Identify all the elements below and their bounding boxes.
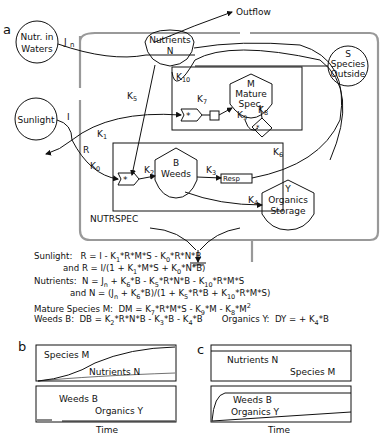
svg-text:J: J bbox=[63, 37, 67, 47]
svg-text:Organics Y: Organics Y bbox=[95, 406, 144, 416]
svg-text:K1: K1 bbox=[97, 129, 107, 141]
svg-text:K9: K9 bbox=[237, 110, 247, 122]
svg-text:Nutrients: Nutrients bbox=[149, 35, 191, 45]
sunlight-flow bbox=[57, 120, 72, 140]
svg-text:Species M: Species M bbox=[44, 350, 89, 360]
svg-text:Outside: Outside bbox=[331, 69, 366, 79]
svg-text:K7: K7 bbox=[197, 94, 207, 106]
svg-text:Resp: Resp bbox=[223, 175, 241, 183]
svg-text:Nutrients N: Nutrients N bbox=[89, 367, 140, 377]
multiplier-k8 bbox=[252, 118, 272, 137]
svg-text:*: * bbox=[256, 124, 260, 132]
svg-text:Time: Time bbox=[95, 425, 118, 435]
svg-text:R: R bbox=[83, 145, 89, 155]
panel-a-label: a bbox=[3, 22, 11, 37]
svg-text:Species M: Species M bbox=[290, 367, 335, 377]
svg-text:N: N bbox=[167, 46, 174, 56]
svg-text:c: c bbox=[197, 342, 204, 357]
jn-flow bbox=[58, 44, 195, 57]
svg-text:Outflow: Outflow bbox=[236, 7, 271, 17]
svg-text:K0: K0 bbox=[90, 161, 100, 173]
nutrspec-diagram: a Nutr. in Waters J n Sunlight I S Speci… bbox=[0, 0, 381, 439]
svg-text:Nutrients N: Nutrients N bbox=[227, 355, 278, 365]
multiplier-mature bbox=[181, 109, 202, 121]
svg-text:K6: K6 bbox=[273, 147, 283, 159]
svg-text:Organics Y: Organics Y bbox=[231, 407, 280, 417]
multiplier-weeds bbox=[118, 173, 139, 185]
svg-text:*: * bbox=[123, 175, 128, 185]
svg-text:b: b bbox=[18, 339, 26, 354]
svg-text:Sunlight: Sunlight bbox=[17, 115, 55, 125]
svg-text:K10: K10 bbox=[176, 72, 190, 84]
svg-text:K8: K8 bbox=[258, 105, 268, 117]
svg-text:B: B bbox=[173, 158, 179, 168]
svg-text:M: M bbox=[247, 79, 255, 89]
svg-text:K2: K2 bbox=[144, 165, 154, 177]
transfer-box bbox=[210, 111, 219, 120]
svg-text:n: n bbox=[70, 41, 74, 49]
svg-text:K3: K3 bbox=[206, 165, 216, 177]
svg-text:Mature: Mature bbox=[235, 89, 267, 99]
svg-text:Weeds: Weeds bbox=[161, 169, 191, 179]
svg-text:Waters: Waters bbox=[21, 44, 53, 54]
svg-text:*: * bbox=[186, 111, 191, 121]
equation-weeds: Weeds B: DB = K2*R*N*B - K3*B - K4*B Org… bbox=[34, 313, 329, 329]
svg-text:Time: Time bbox=[267, 425, 290, 435]
svg-text:NUTRSPEC: NUTRSPEC bbox=[90, 214, 138, 224]
svg-text:Weeds B: Weeds B bbox=[59, 394, 98, 404]
svg-text:K5: K5 bbox=[127, 91, 137, 103]
svg-text:Storage: Storage bbox=[270, 206, 306, 216]
svg-text:S: S bbox=[345, 49, 351, 59]
svg-text:Y: Y bbox=[284, 184, 291, 194]
svg-text:Weeds B: Weeds B bbox=[233, 395, 272, 405]
svg-text:I: I bbox=[67, 112, 70, 122]
svg-text:Organics: Organics bbox=[268, 195, 308, 205]
svg-text:Nutr. in: Nutr. in bbox=[21, 32, 54, 42]
nutrients-waters-source bbox=[16, 21, 58, 63]
svg-text:Species: Species bbox=[331, 59, 366, 69]
